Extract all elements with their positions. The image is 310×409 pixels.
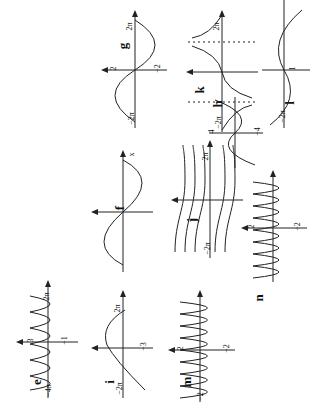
tick-f-x: x xyxy=(127,153,136,157)
graph-i: −3 −2π 2π xyxy=(85,290,155,400)
tick-l-xmin: −2π xyxy=(278,110,287,123)
tick-l-ymax: 1 xyxy=(288,67,297,71)
tick-k-ymin: −4 xyxy=(253,127,262,136)
tick-e-ymax: 3 xyxy=(26,339,35,343)
tick-k-ymax: 4 xyxy=(207,130,216,134)
tick-g-ymin: −2 xyxy=(153,64,162,73)
tick-e-ymin: −1 xyxy=(60,336,69,345)
tick-n-ymax: 2 xyxy=(247,225,256,229)
graph-e: 3 −1 −4π 2π xyxy=(10,280,80,400)
graph-f: x xyxy=(85,150,155,275)
graph-k: 4 −4 xyxy=(205,95,265,170)
tick-m-ymin: −2 xyxy=(222,344,231,353)
tick-j-xmin: −2π xyxy=(203,242,212,255)
graph-n: 2 −2 xyxy=(235,170,310,285)
tick-h-xmax: 2π xyxy=(212,22,221,30)
tick-e-xmax: 2π xyxy=(42,292,51,300)
tick-g-xmax: 2π xyxy=(125,22,134,30)
tick-n-ymin: −2 xyxy=(293,222,302,231)
panel-label-n: n xyxy=(251,294,267,301)
graph-m: 2 −2 −2 xyxy=(160,290,240,405)
graph-f-plot xyxy=(85,150,155,275)
tick-g-xmin: −2π xyxy=(127,112,136,125)
graph-l: 1 −2π xyxy=(262,0,310,130)
graph-g: 2 −2 −2π 2π xyxy=(95,10,170,130)
tick-i-ymin: −3 xyxy=(139,342,148,351)
tick-m-xmin: −2 xyxy=(196,392,205,401)
tick-g-ymax: 2 xyxy=(109,67,118,71)
tick-e-xmin: −4π xyxy=(44,384,53,397)
tick-m-ymax: 2 xyxy=(176,347,185,351)
tick-i-xmax: 2π xyxy=(113,304,122,312)
tick-i-xmin: −2π xyxy=(115,382,124,395)
